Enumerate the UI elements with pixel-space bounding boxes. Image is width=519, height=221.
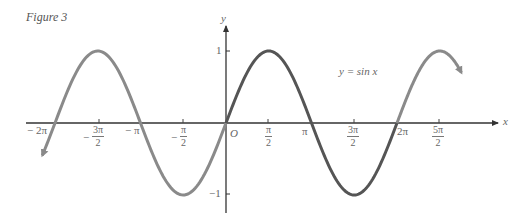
y-tick-label-1: 1 <box>216 45 222 56</box>
x-tick-sign-neg-pi2: − <box>171 132 177 143</box>
x-tick-label-pi2: π 2 <box>265 125 272 148</box>
x-tick-label-2pi: 2π <box>397 126 408 137</box>
x-tick-label-neg-pi: − π <box>125 125 140 136</box>
y-axis-label: y <box>221 13 226 24</box>
x-tick-sign-neg-3pi2: − <box>83 132 89 143</box>
y-tick-label-neg1: −1 <box>209 188 221 199</box>
figure-title: Figure 3 <box>26 10 67 25</box>
x-tick-label-neg-3pi2: 3π 2 <box>92 125 104 148</box>
x-tick-label-5pi2: 5π 2 <box>432 125 444 148</box>
x-tick-label-neg-2pi: − 2π <box>27 125 47 136</box>
x-tick-label-3pi2: 3π 2 <box>347 125 359 148</box>
x-axis-label: x <box>503 116 508 127</box>
sine-curve-right <box>397 51 461 123</box>
x-tick-label-pi: π <box>302 126 308 137</box>
equation-label: y = sin x <box>339 66 377 77</box>
x-tick-label-neg-pi2: π 2 <box>180 125 187 148</box>
origin-label: O <box>230 128 238 139</box>
sine-graph <box>0 0 519 221</box>
